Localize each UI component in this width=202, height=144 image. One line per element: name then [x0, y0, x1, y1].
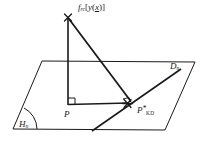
- label-point-p: P: [64, 110, 70, 119]
- pkd-subscript: KD: [146, 110, 154, 116]
- hypotenuse-segment: [69, 19, 131, 102]
- line-dn: [92, 69, 181, 131]
- label-plane-hn: Hn: [19, 120, 28, 130]
- plane-hn-shape: [13, 61, 195, 130]
- geometric-diagram-figure: frc[y(x)] P P*KD Dn Hn: [0, 0, 202, 144]
- apex-bracket-close: ]: [102, 2, 105, 12]
- hn-subscript: n: [26, 123, 29, 129]
- label-line-dn: Dn: [170, 62, 179, 72]
- dn-subscript: n: [177, 65, 180, 71]
- label-point-pkd: P*KD: [137, 106, 154, 116]
- label-apex-function: frc[y(x)]: [78, 3, 105, 13]
- diagram-canvas: [0, 0, 202, 144]
- base-segment: [68, 103, 129, 105]
